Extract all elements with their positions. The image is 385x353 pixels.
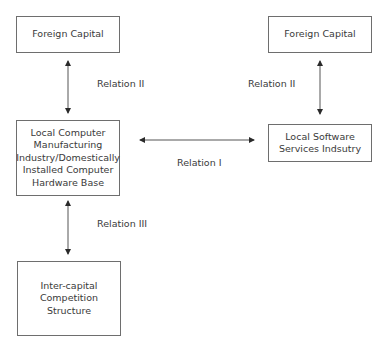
node-label-line: Manufacturing bbox=[16, 139, 120, 152]
node-label-line: Services Indsutry bbox=[279, 143, 361, 156]
node-foreign-capital-right: Foreign Capital bbox=[268, 16, 372, 53]
node-label-line: Local Software bbox=[279, 131, 361, 144]
node-inter-capital-competition: Inter-capital Competition Structure bbox=[17, 261, 121, 336]
edge-label-right-relation-ii: Relation II bbox=[248, 78, 295, 89]
edge-label-relation-iii: Relation III bbox=[97, 218, 147, 229]
node-label-line: Installed Computer bbox=[16, 164, 120, 177]
node-label: Foreign Capital bbox=[284, 28, 356, 41]
node-label-line: Structure bbox=[40, 305, 98, 318]
edge-label-relation-i: Relation I bbox=[177, 157, 222, 168]
node-local-computer-manufacturing: Local Computer Manufacturing Industry/Do… bbox=[16, 120, 120, 196]
node-local-software-services: Local Software Services Indsutry bbox=[268, 124, 372, 162]
node-label-line: Industry/Domestically bbox=[16, 152, 120, 165]
edge-label-left-relation-ii: Relation II bbox=[97, 78, 144, 89]
node-label-line: Competition bbox=[40, 292, 98, 305]
node-label-line: Hardware Base bbox=[16, 177, 120, 190]
node-label-line: Local Computer bbox=[16, 127, 120, 140]
node-label-line: Inter-capital bbox=[40, 280, 98, 293]
node-label: Foreign Capital bbox=[32, 28, 104, 41]
node-foreign-capital-left: Foreign Capital bbox=[16, 16, 120, 53]
